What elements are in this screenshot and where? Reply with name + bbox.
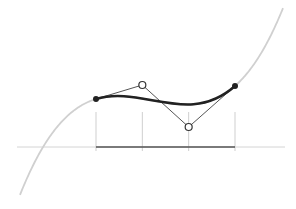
interval-division-lines — [96, 112, 235, 151]
control-point-p1[interactable] — [139, 82, 146, 89]
control-point-p0[interactable] — [93, 96, 99, 102]
control-polygon — [96, 85, 235, 127]
control-point-p3[interactable] — [232, 83, 238, 89]
underlying-cubic-curve — [20, 8, 283, 195]
bezier-curve-segment — [96, 86, 235, 105]
bezier-diagram — [0, 0, 296, 209]
control-point-p2[interactable] — [185, 124, 192, 131]
